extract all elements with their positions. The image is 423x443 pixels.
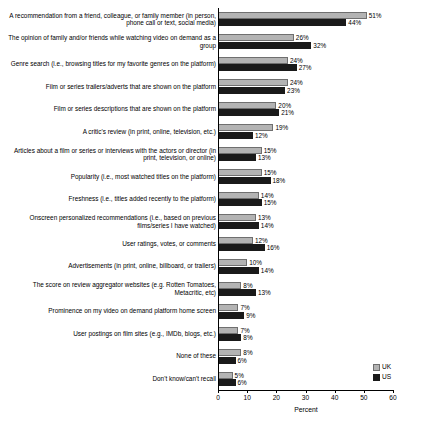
legend: UK US — [362, 362, 396, 382]
bar-value-label: 7% — [240, 327, 249, 334]
bar-us-9: 14% — [218, 222, 393, 229]
bar-rect — [218, 357, 236, 364]
category-label-11: Advertisements (in print, online, billbo… — [4, 262, 216, 270]
bar-value-label: 23% — [287, 87, 300, 94]
plot-area: 51%44%26%32%24%27%24%23%20%21%19%12%15%1… — [218, 8, 393, 390]
bar-uk-3: 24% — [218, 79, 393, 86]
bar-value-label: 9% — [246, 312, 255, 319]
x-tick-label-0: 0 — [216, 394, 220, 401]
x-tick-label-50: 50 — [360, 394, 367, 401]
legend-swatch-uk-icon — [373, 364, 380, 371]
category-label-1: The opinion of family and/or friends whi… — [4, 34, 216, 49]
x-tick-10 — [247, 390, 248, 393]
bar-us-12: 13% — [218, 289, 393, 296]
category-labels: A recommendation from a friend, colleagu… — [2, 8, 216, 390]
bar-value-label: 44% — [348, 19, 361, 26]
bar-value-label: 8% — [243, 282, 252, 289]
category-label-4: Film or series descriptions that are sho… — [4, 105, 216, 113]
bar-value-label: 19% — [275, 124, 288, 131]
horizontal-bar-chart: A recommendation from a friend, colleagu… — [0, 0, 423, 443]
category-label-8: Freshness (i.e., titles added recently t… — [4, 195, 216, 203]
category-label-12: The score on review aggregator websites … — [4, 281, 216, 296]
bar-uk-9: 13% — [218, 214, 393, 221]
bar-us-8: 15% — [218, 199, 393, 206]
category-label-6: Articles about a film or series or inter… — [4, 147, 216, 162]
legend-label-uk: UK — [382, 363, 396, 370]
bar-value-label: 15% — [264, 147, 277, 154]
category-label-5: A critic's review (in print, online, tel… — [4, 128, 216, 136]
bar-value-label: 8% — [243, 349, 252, 356]
bar-rect — [218, 34, 294, 41]
bar-us-10: 16% — [218, 244, 393, 251]
x-tick-0 — [218, 390, 219, 393]
bar-us-5: 12% — [218, 132, 393, 139]
bar-rect — [218, 132, 253, 139]
bar-rect — [218, 222, 259, 229]
bar-uk-12: 8% — [218, 282, 393, 289]
bar-rect — [218, 214, 256, 221]
x-tick-label-20: 20 — [273, 394, 280, 401]
bar-us-7: 18% — [218, 177, 393, 184]
bar-value-label: 27% — [299, 64, 312, 71]
bar-value-label: 32% — [313, 42, 326, 49]
bar-value-label: 10% — [249, 259, 262, 266]
bar-us-2: 27% — [218, 64, 393, 71]
bar-value-label: 14% — [261, 192, 274, 199]
category-label-0: A recommendation from a friend, colleagu… — [4, 12, 216, 27]
bar-us-11: 14% — [218, 267, 393, 274]
bar-value-label: 21% — [281, 109, 294, 116]
bar-us-13: 9% — [218, 312, 393, 319]
bar-uk-4: 20% — [218, 102, 393, 109]
x-axis-title: Percent — [218, 406, 394, 413]
bar-rect — [218, 102, 276, 109]
bar-value-label: 26% — [296, 34, 309, 41]
bar-uk-8: 14% — [218, 192, 393, 199]
y-axis-line — [218, 8, 219, 390]
bar-value-label: 24% — [290, 57, 303, 64]
category-label-15: None of these — [4, 352, 216, 360]
bar-value-label: 51% — [369, 12, 382, 19]
bar-rect — [218, 192, 259, 199]
bar-uk-7: 15% — [218, 169, 393, 176]
bar-rect — [218, 334, 241, 341]
x-tick-50 — [364, 390, 365, 393]
bar-us-0: 44% — [218, 19, 393, 26]
bar-uk-15: 8% — [218, 349, 393, 356]
bar-rect — [218, 304, 238, 311]
bar-rect — [218, 154, 256, 161]
bar-rect — [218, 87, 285, 94]
bar-value-label: 13% — [258, 154, 271, 161]
bar-value-label: 7% — [240, 304, 249, 311]
bar-us-14: 8% — [218, 334, 393, 341]
bar-value-label: 18% — [273, 177, 286, 184]
legend-item-uk: UK — [362, 362, 396, 372]
category-label-9: Onscreen personalized recommendations (i… — [4, 214, 216, 229]
x-tick-label-30: 30 — [302, 394, 309, 401]
x-tick-60 — [393, 390, 394, 393]
bar-rect — [218, 244, 265, 251]
bar-value-label: 24% — [290, 79, 303, 86]
category-label-16: Don't know/can't recall — [4, 375, 216, 383]
bar-value-label: 8% — [243, 334, 252, 341]
bar-rect — [218, 169, 262, 176]
bar-rect — [218, 177, 271, 184]
category-label-3: Film or series trailers/adverts that are… — [4, 83, 216, 91]
category-label-14: User postings on film sites (e.g., IMDb,… — [4, 330, 216, 338]
bar-uk-6: 15% — [218, 147, 393, 154]
bar-value-label: 5% — [235, 372, 244, 379]
bar-rect — [218, 259, 247, 266]
x-tick-20 — [276, 390, 277, 393]
bar-rect — [218, 372, 233, 379]
legend-item-us: US — [362, 372, 396, 382]
legend-swatch-us-icon — [373, 374, 380, 381]
category-label-2: Genre search (i.e., browsing titles for … — [4, 60, 216, 68]
bar-rect — [218, 289, 256, 296]
bar-value-label: 15% — [264, 199, 277, 206]
bar-rect — [218, 379, 236, 386]
category-label-10: User ratings, votes, or comments — [4, 240, 216, 248]
bar-us-3: 23% — [218, 87, 393, 94]
bar-rect — [218, 42, 311, 49]
x-tick-40 — [335, 390, 336, 393]
bar-uk-5: 19% — [218, 124, 393, 131]
bar-us-4: 21% — [218, 109, 393, 116]
